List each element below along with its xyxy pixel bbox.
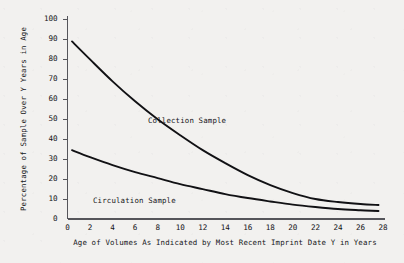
x-tick-label: 28 [373,223,393,232]
y-tick-label: 40 [32,134,58,143]
x-tick-label: 4 [103,223,123,232]
data-curves [72,41,378,211]
x-tick-label: 24 [328,223,348,232]
y-tick-label: 30 [32,154,58,163]
y-tick-label: 90 [32,34,58,43]
y-tick-label: 60 [32,94,58,103]
x-tick-label: 8 [148,223,168,232]
x-tick-label: 12 [193,223,213,232]
y-tick-label: 100 [32,14,58,23]
y-tick-label: 20 [32,174,58,183]
x-tick-label: 26 [350,223,370,232]
x-tick-label: 10 [170,223,190,232]
x-tick-label: 22 [305,223,325,232]
x-tick-label: 18 [260,223,280,232]
y-tick-label: 70 [32,74,58,83]
x-tick-label: 0 [58,223,78,232]
y-tick-label: 80 [32,54,58,63]
x-tick-label: 6 [125,223,145,232]
x-tick-label: 20 [283,223,303,232]
y-tick-label: 10 [32,194,58,203]
x-tick-label: 16 [238,223,258,232]
x-tick-label: 14 [215,223,235,232]
axes [63,16,385,220]
y-tick-label: 0 [32,214,58,223]
x-tick-label: 2 [80,223,100,232]
chart-figure: Percentage of Sample Over Y Years in Age… [0,0,404,263]
y-tick-label: 50 [32,114,58,123]
curve-collection-sample [72,41,378,205]
